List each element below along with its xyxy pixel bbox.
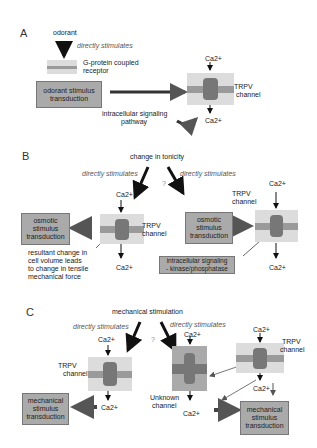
box-line: transduction [50, 95, 88, 103]
box-line: stimulus [33, 405, 59, 413]
box-line: intracellular signaling [167, 257, 228, 265]
box-line: mechanical [28, 397, 63, 405]
ca-label: Ca2+ [183, 410, 200, 418]
odorant-label: odorant [53, 29, 77, 37]
box-line: transduction [190, 232, 228, 240]
question-mark: ? [162, 180, 166, 188]
box-line: - kinase/phosphatase [166, 265, 228, 273]
ca-label: Ca2+ [184, 331, 201, 339]
box-line: mechanical [247, 406, 282, 414]
ca-label: Ca2+ [269, 180, 286, 188]
box-line: stimulus [252, 414, 278, 422]
trpv-channel-icon [255, 210, 298, 242]
directly-stimulates-label: directly stimulates [170, 321, 226, 329]
pathway-label: intracellular signaling [102, 110, 167, 118]
trpv-channel-icon [100, 214, 144, 244]
gpcr-icon [47, 60, 77, 74]
directly-stimulates-label: directly stimulates [180, 170, 236, 178]
intracellular-signaling-box: intracellular signaling- kinase/phosphat… [159, 256, 235, 274]
box-line: odorant stimulus [43, 87, 94, 95]
trpv-label: channel [63, 370, 88, 378]
ca-label: Ca2+ [205, 55, 222, 63]
unknown-channel-label: channel [152, 402, 177, 410]
trpv-label: TRPV [58, 362, 77, 370]
note-line: mechanical force [28, 273, 81, 281]
trpv-label: TRPV [232, 190, 251, 198]
trpv-label: channel [236, 91, 261, 99]
gpcr-label-1: G-protein coupled [83, 59, 139, 67]
tonicity-label: change in tonicity [130, 153, 184, 161]
note-line: resultant change in [28, 249, 87, 257]
gpcr-label-2: receptor [83, 67, 109, 75]
trpv-label: TRPV [234, 83, 253, 91]
ca-label: Ca2+ [116, 191, 133, 199]
panel-c-label: C [26, 306, 34, 318]
unknown-channel-icon [172, 346, 207, 391]
trpv-channel-icon [88, 357, 132, 391]
osmotic-transduction-box: osmoticstimulustransduction [21, 213, 70, 245]
ca-label: Ca2+ [253, 326, 270, 334]
box-line: transduction [245, 422, 283, 430]
question-mark: ? [151, 336, 155, 344]
box-line: transduction [26, 233, 64, 241]
note-line: to change in tensile [28, 265, 88, 273]
box-line: osmotic [33, 217, 57, 225]
directly-stimulates-label: directly stimulates [77, 42, 133, 50]
trpv-channel-icon [236, 343, 284, 373]
box-line: stimulus [33, 225, 59, 233]
box-line: osmotic [197, 216, 221, 224]
box-line: stimulus [196, 224, 222, 232]
figure: A odorant directly stimulates G-protein … [0, 0, 317, 448]
ca-label: Ca2+ [269, 264, 286, 272]
trpv-label: channel [142, 230, 167, 238]
directly-stimulates-label: directly stimulates [82, 170, 138, 178]
panel-a-label: A [20, 27, 27, 39]
trpv-label: TRPV [282, 338, 301, 346]
mechanical-transduction-box: mechanicalstimulustransduction [22, 393, 69, 425]
directly-stimulates-label: directly stimulates [73, 323, 129, 331]
odorant-transduction-box: odorant stimulustransduction [36, 81, 102, 108]
unknown-channel-label: Unknown [150, 394, 179, 402]
mechanical-transduction-box-2: mechanicalstimulustransduction [240, 401, 289, 435]
box-line: transduction [26, 413, 64, 421]
panel-b-label: B [22, 150, 29, 162]
trpv-label: channel [232, 198, 257, 206]
mechanical-stimulation-label: mechanical stimulation [112, 308, 183, 316]
osmotic-transduction-box-2: osmoticstimulustransduction [185, 212, 233, 244]
note-line: cell volume leads [28, 257, 82, 265]
pathway-label: pathway [121, 118, 147, 126]
ca-label: Ca2+ [98, 336, 115, 344]
trpv-label: channel [280, 346, 305, 354]
trpv-channel-icon [187, 73, 234, 105]
trpv-label: TRPV [142, 222, 161, 230]
ca-label: Ca2+ [116, 264, 133, 272]
ca-label: Ca2+ [101, 404, 118, 412]
ca-label: Ca2+ [205, 117, 222, 125]
ca-label: Ca2+ [253, 385, 270, 393]
